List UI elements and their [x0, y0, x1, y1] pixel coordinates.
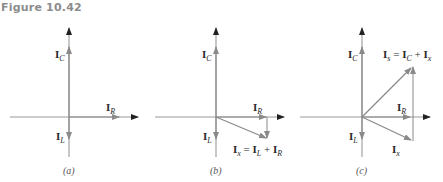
- panel-c: IC IR IL Ix Is = IC + Ix (c): [300, 28, 432, 177]
- phasor-diagrams: IC IR IL (a) IC IR IL Ix = IL + IR (b) I…: [0, 0, 443, 182]
- label-ir: IR: [397, 101, 406, 116]
- label-sum-equation: Ix = IL + IR: [233, 143, 282, 158]
- label-ic: IC: [348, 48, 358, 63]
- label-il: IL: [56, 130, 65, 145]
- label-ix: Ix: [392, 143, 400, 158]
- label-ir: IR: [106, 101, 115, 116]
- label-il: IL: [203, 130, 212, 145]
- caption-a: (a): [63, 165, 75, 177]
- label-ic: IC: [202, 48, 212, 63]
- panel-b: IC IR IL Ix = IL + IR (b): [155, 28, 284, 177]
- label-ir: IR: [253, 101, 262, 116]
- label-sum-equation: Is = IC + Ix: [383, 48, 432, 63]
- caption-b: (b): [210, 165, 222, 177]
- phasor-is-sum: [216, 117, 266, 138]
- label-il: IL: [349, 130, 358, 145]
- panel-a: IC IR IL (a): [10, 28, 138, 177]
- caption-c: (c): [356, 165, 368, 177]
- label-ic: IC: [55, 48, 65, 63]
- phasor-ix: [362, 117, 411, 140]
